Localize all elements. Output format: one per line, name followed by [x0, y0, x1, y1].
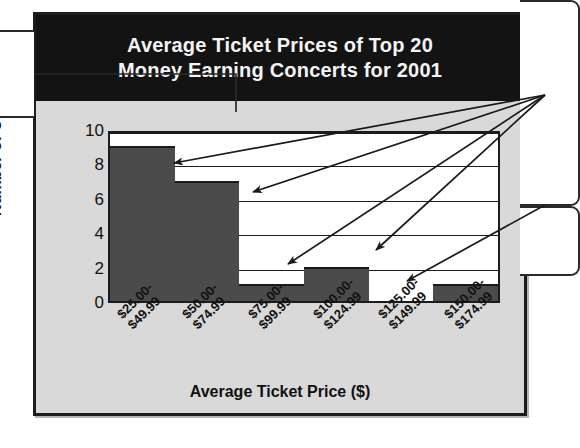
callout-box-left [0, 30, 34, 118]
x-tick-slot: $25.00-$49.99 [108, 307, 173, 395]
chart-title-line-2: Money Earning Concerts for 2001 [118, 58, 442, 83]
plot-area [108, 131, 500, 303]
chart-title-line-1: Average Ticket Prices of Top 20 [127, 33, 433, 58]
callout-box-right-top [520, 0, 580, 206]
bar-slot [175, 133, 240, 301]
bar-slot [433, 133, 498, 301]
x-tick-slot: $75.00-$99.99 [239, 307, 304, 395]
x-tick-slot: $150.00-$174.99 [435, 307, 500, 395]
callout-box-right-bottom [520, 206, 580, 276]
chart-title-banner: Average Ticket Prices of Top 20 Money Ea… [36, 15, 524, 101]
bar-series [110, 133, 498, 301]
chart-figure-frame: Average Ticket Prices of Top 20 Money Ea… [33, 12, 527, 416]
x-tick-slot: $50.00-$74.99 [173, 307, 238, 395]
y-tick-label: 6 [78, 191, 104, 208]
x-axis-title: Average Ticket Price ($) [36, 383, 524, 401]
bar-slot [369, 133, 434, 301]
x-tick-slot: $125.00-$149.99 [369, 307, 434, 395]
bar [110, 146, 175, 301]
y-tick-label: 8 [78, 156, 104, 173]
x-axis-tick-labels: $25.00-$49.99$50.00-$74.99$75.00-$99.99$… [108, 307, 500, 395]
bar-slot [304, 133, 369, 301]
y-axis-tick-labels: 0246810 [70, 131, 104, 303]
bar-slot [239, 133, 304, 301]
y-tick-label: 2 [78, 260, 104, 277]
y-tick-label: 0 [78, 294, 104, 311]
bar-slot [110, 133, 175, 301]
y-tick-label: 10 [78, 122, 104, 139]
x-tick-slot: $100.00-$124.99 [304, 307, 369, 395]
y-tick-label: 4 [78, 225, 104, 242]
